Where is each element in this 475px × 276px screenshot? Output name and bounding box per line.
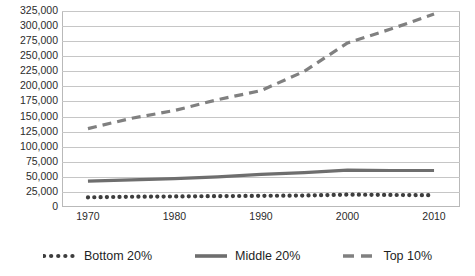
x-axis-tick-label: 1970 <box>58 210 118 223</box>
y-axis-tick-label: 50,000 <box>0 171 58 182</box>
y-axis-tick-label: 200,000 <box>0 80 58 91</box>
legend-label: Top 10% <box>383 249 432 263</box>
y-axis-tick-label: 275,000 <box>0 35 58 46</box>
x-axis: 19701980199020002010 <box>62 210 460 226</box>
x-axis-tick-label: 1990 <box>231 210 291 223</box>
y-axis-tick-label: 300,000 <box>0 20 58 31</box>
series-layer <box>62 11 460 207</box>
legend-label: Bottom 20% <box>84 249 152 263</box>
series-line-middle-20 <box>88 170 434 181</box>
y-axis-tick-label: 125,000 <box>0 126 58 137</box>
chart-legend: Bottom 20%Middle 20%Top 10% <box>0 244 475 268</box>
legend-item[interactable]: Top 10% <box>342 249 432 263</box>
legend-item[interactable]: Bottom 20% <box>43 249 152 263</box>
series-line-bottom-20 <box>88 195 434 198</box>
legend-swatch-solid <box>194 250 228 262</box>
y-axis-tick-label: 100,000 <box>0 141 58 152</box>
y-axis-tick-label: 225,000 <box>0 65 58 76</box>
x-axis-tick-label: 1980 <box>144 210 204 223</box>
series-line-top-10 <box>88 14 434 129</box>
y-axis-tick-label: 150,000 <box>0 111 58 122</box>
x-axis-tick-label: 2000 <box>318 210 378 223</box>
y-axis: 325,000300,000275,000250,000225,000200,0… <box>0 11 58 207</box>
x-axis-tick-label: 2010 <box>404 210 464 223</box>
y-axis-tick-label: 75,000 <box>0 156 58 167</box>
y-axis-tick-label: 25,000 <box>0 186 58 197</box>
y-axis-tick-label: 0 <box>0 201 58 212</box>
legend-label: Middle 20% <box>235 249 300 263</box>
y-axis-tick-label: 175,000 <box>0 95 58 106</box>
legend-swatch-dotted <box>43 250 77 262</box>
plot-area <box>62 11 460 207</box>
legend-item[interactable]: Middle 20% <box>194 249 300 263</box>
income-percentile-line-chart: 325,000300,000275,000250,000225,000200,0… <box>0 0 475 276</box>
y-axis-tick-label: 325,000 <box>0 5 58 16</box>
y-axis-tick-label: 250,000 <box>0 50 58 61</box>
legend-swatch-dashed <box>342 250 376 262</box>
